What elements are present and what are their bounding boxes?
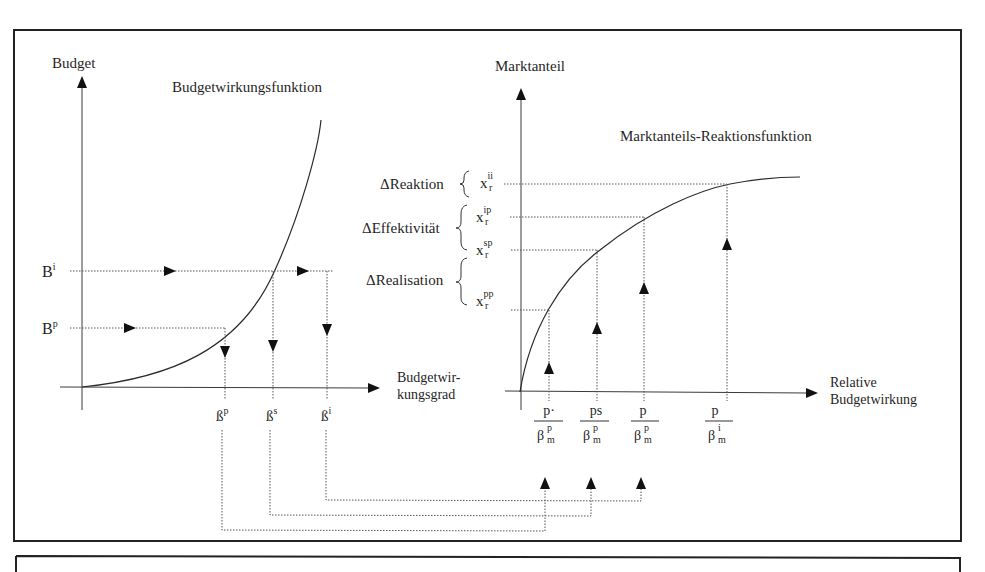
left-chart: Budget Budgetwirkungsfunktion Bi Bp Budg… bbox=[42, 55, 461, 424]
svg-text:m: m bbox=[644, 434, 652, 445]
right-x-arrow-icon bbox=[806, 388, 818, 398]
arrow-down-icon bbox=[220, 346, 230, 358]
svg-text:p: p bbox=[644, 422, 649, 433]
arrow-right-icon bbox=[297, 266, 309, 276]
svg-text:m: m bbox=[547, 434, 555, 445]
arrow-up-icon bbox=[586, 477, 596, 489]
left-x-arrow-icon bbox=[368, 383, 380, 393]
right-x-axis-label-1: Relative bbox=[830, 375, 877, 390]
figure-frame bbox=[14, 30, 961, 541]
arrow-up-icon bbox=[540, 477, 550, 489]
arrow-up-icon bbox=[592, 322, 602, 334]
svg-text:i: i bbox=[718, 422, 721, 433]
effektivitaet-brace bbox=[456, 205, 467, 250]
left-x-axis bbox=[60, 387, 372, 388]
svg-text:ps: ps bbox=[590, 403, 602, 418]
y-tick-x-ip: xip bbox=[476, 204, 491, 225]
svg-text:p: p bbox=[593, 422, 598, 433]
y-tick-bp: Bp bbox=[42, 318, 58, 337]
left-x-axis-label-2: kungsgrad bbox=[397, 387, 455, 402]
budget-effect-curve bbox=[82, 120, 321, 387]
svg-text:p: p bbox=[640, 403, 647, 418]
x-tick-fraction-4: p β i m bbox=[705, 403, 733, 445]
arrow-up-icon bbox=[722, 238, 732, 250]
right-x-axis bbox=[505, 391, 808, 393]
right-y-arrow-icon bbox=[516, 88, 526, 100]
y-tick-bi: Bi bbox=[42, 261, 56, 280]
svg-text:m: m bbox=[718, 434, 726, 445]
arrow-up-icon bbox=[636, 477, 646, 489]
arrow-up-icon bbox=[639, 282, 649, 294]
left-y-axis-label: Budget bbox=[52, 55, 96, 71]
x-tick-fraction-2: ps β p m bbox=[580, 403, 609, 445]
arrow-right-icon bbox=[164, 266, 176, 276]
right-y-axis-label: Marktanteil bbox=[495, 58, 565, 74]
delta-effektivitaet-label: ΔEffektivität bbox=[362, 220, 441, 236]
svg-text:m: m bbox=[593, 434, 601, 445]
svg-text:β: β bbox=[537, 428, 544, 443]
realisation-brace bbox=[456, 258, 467, 305]
connector-lines bbox=[222, 430, 646, 531]
arrow-down-icon bbox=[322, 324, 332, 336]
arrow-right-icon bbox=[124, 323, 136, 333]
next-figure-frame bbox=[16, 556, 960, 572]
right-chart-title: Marktanteils-Reaktionsfunktion bbox=[620, 128, 812, 144]
left-chart-title: Budgetwirkungsfunktion bbox=[172, 79, 322, 95]
svg-text:p·: p· bbox=[543, 403, 555, 418]
svg-text:β: β bbox=[708, 428, 715, 443]
y-tick-x-pp-sub: r bbox=[485, 300, 489, 311]
x-tick-beta-i: ßi bbox=[321, 405, 332, 424]
reaktion-brace bbox=[460, 171, 469, 197]
arrow-down-icon bbox=[268, 340, 278, 352]
arrow-up-icon bbox=[544, 362, 554, 374]
svg-text:β: β bbox=[634, 428, 641, 443]
delta-realisation-label: ΔRealisation bbox=[366, 272, 444, 288]
svg-text:β: β bbox=[583, 428, 590, 443]
market-share-reaction-curve bbox=[520, 177, 800, 392]
x-tick-beta-s: ßs bbox=[266, 405, 278, 424]
y-tick-x-sp-sub: r bbox=[485, 249, 489, 260]
x-tick-beta-p: ßp bbox=[216, 405, 229, 424]
y-tick-x-ii-sub: r bbox=[489, 182, 493, 193]
x-tick-fraction-1: p· β p m bbox=[534, 403, 563, 445]
left-x-axis-label-1: Budgetwir- bbox=[397, 370, 461, 385]
diagram-canvas: Budget Budgetwirkungsfunktion Bi Bp Budg… bbox=[0, 0, 985, 572]
right-x-axis-label-2: Budgetwirkung bbox=[830, 392, 917, 407]
delta-reaktion-label: ΔReaktion bbox=[380, 176, 444, 192]
x-tick-fraction-3: p β p m bbox=[631, 403, 659, 445]
svg-text:p: p bbox=[547, 422, 552, 433]
left-y-arrow-icon bbox=[77, 76, 87, 88]
svg-text:p: p bbox=[712, 403, 719, 418]
y-tick-x-ip-sub: r bbox=[485, 216, 489, 227]
